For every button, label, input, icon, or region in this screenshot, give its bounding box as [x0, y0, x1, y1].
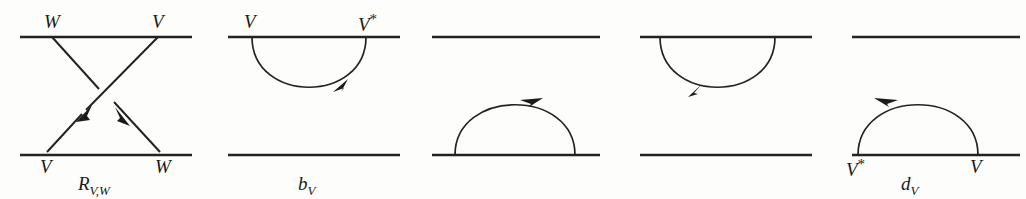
caption-subscript: V,W [90, 183, 110, 198]
cap-down-svg [210, 0, 410, 199]
strand-v-front [47, 37, 158, 152]
node-label-right: V* [358, 12, 377, 34]
arrowhead-down-left [688, 84, 702, 97]
cap-arc [660, 37, 775, 87]
panel-caption: RV,W [78, 174, 110, 197]
diagram-panel-d-prime: V V* d′V [830, 0, 1026, 199]
diagram-panel-b: V V* bV [210, 0, 410, 199]
tangle-diagram-figure: W V V W RV,W V V* bV [0, 0, 1026, 199]
cup-up-prime-svg [830, 0, 1026, 199]
node-label-bottom-left: V [40, 157, 52, 176]
arrowhead-down-left [76, 105, 92, 122]
cap-arc [252, 37, 366, 87]
diagram-panel-b-prime: V* V b′V [620, 0, 830, 199]
node-label-top-right: V [152, 12, 164, 31]
strand-w-back [52, 37, 160, 152]
caption-base: R [78, 173, 90, 194]
node-label-top-left: W [44, 12, 60, 31]
panel-caption: bV [298, 174, 315, 197]
cup-arc [858, 105, 978, 155]
arrowhead-left [874, 98, 898, 107]
crossing-svg [0, 0, 210, 199]
cup-arc [455, 105, 575, 155]
diagram-panel-d: V* V dV [410, 0, 620, 199]
cup-up-svg [410, 0, 620, 199]
diagram-panel-crossing: W V V W RV,W [0, 0, 210, 199]
arrowhead-up-right [333, 79, 348, 92]
caption-base: b [298, 173, 308, 194]
cap-down-prime-svg [620, 0, 830, 199]
node-label-left: V [244, 12, 256, 31]
caption-subscript: V [308, 183, 316, 198]
node-label-bottom-right: W [155, 157, 171, 176]
